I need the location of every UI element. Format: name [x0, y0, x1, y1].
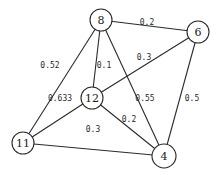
edge-weight-label: 0.3	[86, 125, 101, 134]
node-4: 4	[152, 144, 176, 168]
edge-weight-label: 0.5	[185, 94, 200, 103]
node-label: 6	[195, 26, 202, 39]
edge-weight-label: 0.55	[135, 94, 154, 103]
node-8: 8	[90, 9, 112, 31]
edge-11-4	[23, 143, 164, 156]
nodes-layer: 8612114	[12, 9, 209, 168]
edge-8-4	[101, 20, 164, 156]
node-label: 8	[98, 14, 105, 27]
node-label: 11	[16, 137, 30, 150]
node-label: 4	[161, 150, 168, 163]
edge-weight-label: 0.2	[122, 115, 137, 124]
edge-12-11	[23, 98, 92, 143]
weighted-graph-diagram: 0.20.520.10.550.30.50.6330.20.3 8612114	[0, 0, 219, 175]
node-label: 12	[85, 92, 99, 105]
edge-weight-label: 0.633	[48, 94, 72, 103]
node-6: 6	[187, 21, 209, 43]
edge-weight-label: 0.1	[97, 61, 112, 70]
node-12: 12	[81, 87, 103, 109]
edge-weight-label: 0.3	[137, 53, 152, 62]
edges-layer	[23, 20, 198, 156]
node-11: 11	[12, 132, 34, 154]
edge-weight-label: 0.2	[140, 18, 155, 27]
edge-weight-label: 0.52	[40, 61, 59, 70]
edge-12-4	[92, 98, 164, 156]
